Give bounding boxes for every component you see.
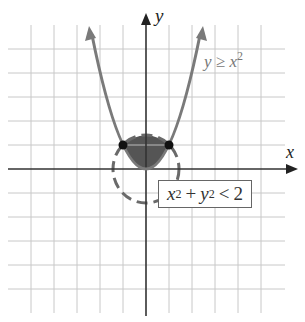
coordinate-graph	[0, 0, 305, 322]
circle-inequality-label: x2 + y2 < 2	[158, 180, 252, 208]
y-axis-label: y	[155, 5, 163, 27]
parabola-left-arrow-icon	[85, 26, 96, 41]
intersection-point-left	[119, 141, 128, 150]
x-axis-arrow-icon	[286, 164, 298, 174]
x-axis-label: x	[286, 142, 294, 163]
parabola-right-arrow-icon	[196, 26, 207, 41]
intersection-point-right	[165, 141, 174, 150]
parabola-label: y ≥ x2	[204, 49, 243, 72]
y-axis-arrow-icon	[141, 13, 151, 25]
